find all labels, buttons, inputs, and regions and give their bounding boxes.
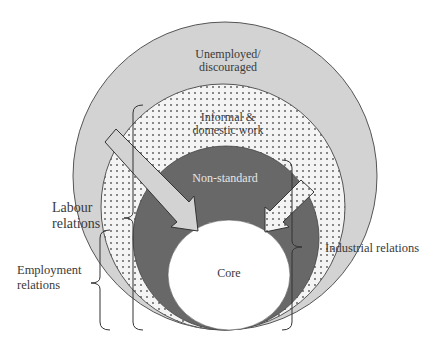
label-nonstandard: Non-standard: [192, 171, 257, 185]
label-labour-line1: Labour: [52, 200, 93, 215]
label-employment-line2: relations: [17, 278, 60, 292]
label-unemployed-line2: discouraged: [199, 60, 257, 74]
label-industrial: Industrial relations: [325, 241, 419, 255]
label-informal-line2: domestic work: [193, 123, 264, 137]
label-unemployed-line1: Unemployed/: [195, 47, 261, 61]
label-labour-line2: relations: [52, 216, 100, 231]
label-employment-line1: Employment: [17, 263, 82, 277]
label-core: Core: [217, 266, 240, 280]
label-informal-line1: Informal &: [201, 110, 256, 124]
labour-relations-diagram: Unemployed/ discouraged Informal & domes…: [0, 0, 433, 347]
